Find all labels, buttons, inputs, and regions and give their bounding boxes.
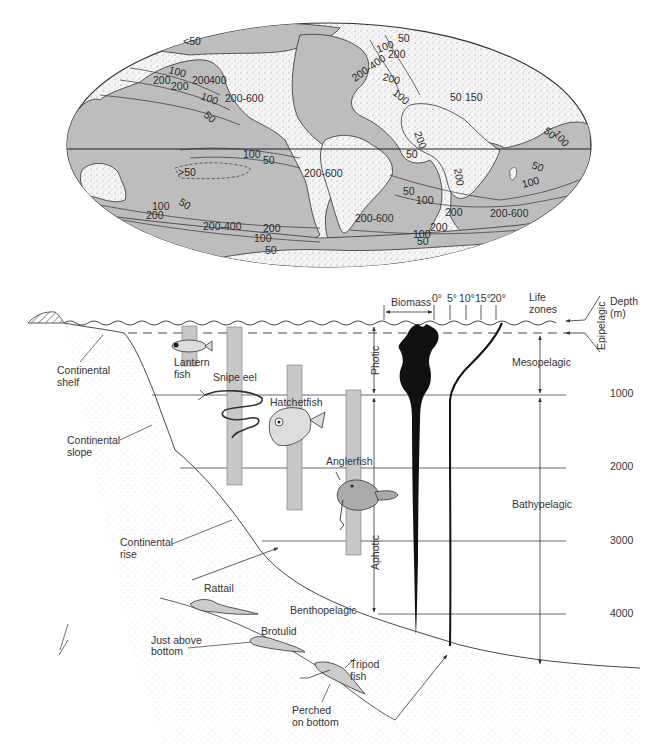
contour-label: 200 [388, 48, 406, 60]
coastal-land-hatch [28, 312, 64, 323]
continental-rise-label-line1: Continental [120, 536, 173, 548]
anglerfish-icon [336, 472, 398, 530]
brotulid-label: Brotulid [261, 625, 297, 637]
temp-label-10: 10° [459, 292, 475, 304]
lanternfish-label-line1: Lantern [174, 356, 210, 368]
snipe-eel-label: Snipe eel [213, 371, 257, 383]
contour-label: 50 [406, 148, 418, 160]
continental-shelf-label-line2: shelf [57, 376, 79, 388]
anglerfish-label: Anglerfish [326, 455, 373, 467]
biomass-profile [399, 324, 439, 635]
contour-label: <50 [183, 35, 201, 47]
benthopelagic-label: Benthopelagic [290, 604, 357, 616]
contour-label: 200 [153, 74, 171, 86]
hatchetfish-label: Hatchetfish [270, 396, 323, 408]
contour-label: 200-600 [304, 167, 343, 179]
temp-label-20: 20° [490, 292, 506, 304]
mesopelagic-label: Mesopelagic [512, 356, 571, 368]
continental-slope-label-line2: slope [67, 446, 92, 458]
life-zones-label-line2: zones [529, 303, 557, 315]
contour-label: 200 [445, 206, 463, 218]
perched-on-bottom-label-line2: on bottom [292, 716, 339, 728]
aphotic-label: Aphotic [369, 535, 381, 570]
biomass-label: Biomass [391, 296, 431, 308]
depth-tick-3000: 3000 [610, 534, 634, 546]
sea-surface [64, 321, 556, 325]
snipe-eel-range-bar [227, 327, 242, 485]
perched-on-bottom-label-line1: Perched [292, 704, 331, 716]
contour-label: 50 [417, 235, 429, 247]
depth-label-line1: Depth [610, 295, 638, 307]
just-above-bottom-label-line2: bottom [151, 645, 183, 657]
contour-label: >50 [178, 166, 196, 178]
continental-rise-label-line2: rise [120, 548, 137, 560]
lanternfish-label-line2: fish [174, 368, 191, 380]
rattail-label: Rattail [204, 582, 234, 594]
anglerfish-range-bar [346, 390, 361, 555]
contour-label: 50 [263, 154, 275, 166]
contour-label: 200-600 [355, 212, 394, 224]
contour-label: 150 [465, 91, 483, 103]
world-map: <50100200200200400100200-600505010020020… [60, 22, 600, 270]
contour-label: 200 [430, 221, 448, 233]
continental-shelf-label-line1: Continental [57, 364, 110, 376]
photic-label: Photic [369, 346, 381, 375]
depth-tick-4000: 4000 [610, 607, 634, 619]
contour-label: 200 [146, 209, 164, 221]
contour-label: 100 [254, 232, 272, 244]
depth-tick-1000: 1000 [610, 387, 634, 399]
temperature-profile [450, 323, 502, 646]
life-zones-label-line1: Life [529, 291, 546, 303]
contour-label: 200-600 [490, 207, 529, 219]
ocean-depth-profile: Biomass 0° 5° 10° 15° 20° Life zones Dep… [28, 291, 640, 744]
tripod-fish-label-line1: Tripod [350, 658, 380, 670]
continental-slope-label-line1: Continental [67, 434, 120, 446]
contour-label: 200-400 [203, 220, 242, 232]
depth-tick-2000: 2000 [610, 460, 634, 472]
contour-label: 200-600 [225, 92, 264, 104]
contour-label: 50 [398, 32, 410, 44]
contour-label: 100 [416, 194, 434, 206]
temp-label-5: 5° [447, 292, 457, 304]
temp-label-0: 0° [432, 292, 442, 304]
temp-label-15: 15° [475, 292, 491, 304]
contour-label: 50 [265, 244, 277, 256]
figure-canvas: <50100200200200400100200-600505010020020… [0, 0, 658, 744]
bathypelagic-label: Bathypelagic [512, 498, 572, 510]
contour-label: 200 [171, 80, 189, 92]
epipelagic-label: Epipelagic [595, 302, 607, 350]
contour-label: 400 [209, 74, 227, 86]
depth-label-line2: (m) [610, 307, 626, 319]
contour-label: 50 [403, 185, 415, 197]
contour-label: 50 [450, 91, 462, 103]
tripod-fish-label-line2: fish [350, 670, 367, 682]
hatchetfish-icon [269, 408, 325, 446]
lanternfish-icon [172, 340, 212, 352]
contour-label: 200 [192, 74, 210, 86]
contour-label: 100 [243, 148, 261, 160]
